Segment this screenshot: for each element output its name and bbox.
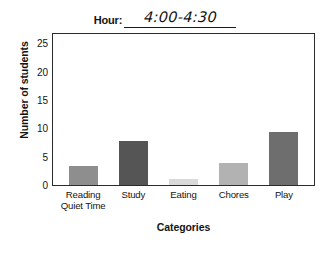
bar-reading-quiet-time	[69, 166, 98, 185]
y-axis-tick-20: 20	[37, 68, 48, 78]
bar-slot	[109, 34, 159, 185]
x-axis-tick-labels: ReadingQuiet TimeStudyEatingChoresPlay	[52, 189, 315, 212]
bar-chart: Number of students 0510152025 ReadingQui…	[0, 31, 330, 253]
y-axis-tick-labels: 0510152025	[22, 31, 48, 186]
x-axis-label-study: Study	[108, 189, 158, 212]
bar-study	[119, 141, 148, 185]
y-axis-tick-0: 0	[42, 181, 48, 191]
bars-layer	[53, 34, 314, 185]
x-axis-label-reading-quiet-time: ReadingQuiet Time	[58, 189, 108, 212]
x-axis-label-play: Play	[259, 189, 309, 212]
hour-field-blank: 4:00-4:30	[124, 8, 236, 28]
x-axis-label-chores: Chores	[209, 189, 259, 212]
bar-chores	[219, 163, 248, 185]
x-axis-label-eating: Eating	[158, 189, 208, 212]
hour-field-label: Hour:	[94, 15, 122, 28]
y-axis-tick-5: 5	[42, 153, 48, 163]
plot-area	[52, 33, 315, 186]
bar-slot	[208, 34, 258, 185]
bar-play	[269, 132, 298, 185]
y-axis-tick-10: 10	[37, 124, 48, 134]
y-axis-tick-25: 25	[37, 39, 48, 49]
y-axis-tick-15: 15	[37, 96, 48, 106]
bar-slot	[258, 34, 308, 185]
hour-header: Hour: 4:00-4:30	[0, 4, 330, 28]
x-axis-title: Categories	[52, 221, 315, 233]
bar-eating	[169, 179, 198, 185]
bar-slot	[159, 34, 209, 185]
hour-field-value: 4:00-4:30	[143, 10, 217, 25]
bar-slot	[59, 34, 109, 185]
